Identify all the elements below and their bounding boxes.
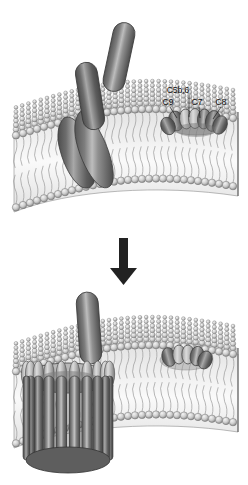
- label-c5b6: C5b,6: [167, 85, 190, 95]
- label-c9: C9: [163, 97, 174, 107]
- standing-c9-lower: [76, 291, 103, 364]
- label-c7: C7: [192, 97, 203, 107]
- mac-assembly-diagram: C5b,6 C9 C7 C8: [0, 0, 248, 485]
- label-c8: C8: [216, 97, 227, 107]
